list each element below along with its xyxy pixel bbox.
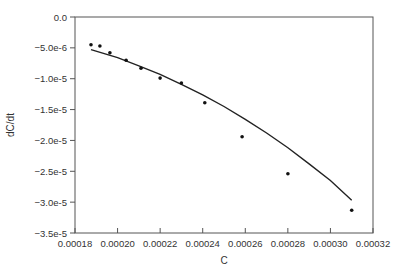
- data-points: [89, 43, 353, 212]
- data-point: [98, 44, 102, 48]
- y-tick-label: −5.0e-6: [35, 42, 68, 53]
- x-tick-label: 0.00022: [143, 238, 177, 249]
- y-tick-label: −1.0e-5: [35, 73, 68, 84]
- x-tick-label: 0.00024: [186, 238, 220, 249]
- data-point: [124, 58, 128, 62]
- x-tick-label: 0.00028: [271, 238, 305, 249]
- y-tick-label: −2.0e-5: [35, 135, 68, 146]
- y-axis-ticks: 0.0−5.0e-6−1.0e-5−1.5e-5−2.0e-5−2.5e-5−3…: [35, 12, 76, 239]
- data-point: [240, 135, 244, 139]
- y-tick-label: −1.5e-5: [35, 104, 68, 115]
- plot-border: [75, 17, 373, 233]
- fit-curve-path: [91, 50, 352, 201]
- x-axis-label: C: [220, 255, 227, 266]
- data-point: [89, 43, 93, 47]
- x-axis-ticks: 0.000180.000200.000220.000240.000260.000…: [58, 228, 390, 249]
- data-point: [108, 51, 112, 55]
- data-point: [286, 172, 290, 176]
- y-tick-label: 0.0: [54, 12, 67, 23]
- x-tick-label: 0.00020: [100, 238, 134, 249]
- y-axis-label: dC/dt: [5, 113, 16, 137]
- data-point: [350, 208, 354, 212]
- chart-canvas: 0.000180.000200.000220.000240.000260.000…: [0, 0, 408, 279]
- fit-curve: [91, 50, 352, 201]
- data-point: [139, 66, 143, 70]
- y-tick-label: −2.5e-5: [35, 166, 68, 177]
- plot-frame: [75, 17, 373, 233]
- data-point: [203, 101, 207, 105]
- data-point: [180, 81, 184, 85]
- x-tick-label: 0.00030: [313, 238, 347, 249]
- y-tick-label: −3.5e-5: [35, 228, 68, 239]
- x-tick-label: 0.00018: [58, 238, 92, 249]
- data-point: [158, 76, 162, 80]
- x-tick-label: 0.00026: [228, 238, 262, 249]
- y-tick-label: −3.0e-5: [35, 197, 68, 208]
- x-tick-label: 0.00032: [356, 238, 390, 249]
